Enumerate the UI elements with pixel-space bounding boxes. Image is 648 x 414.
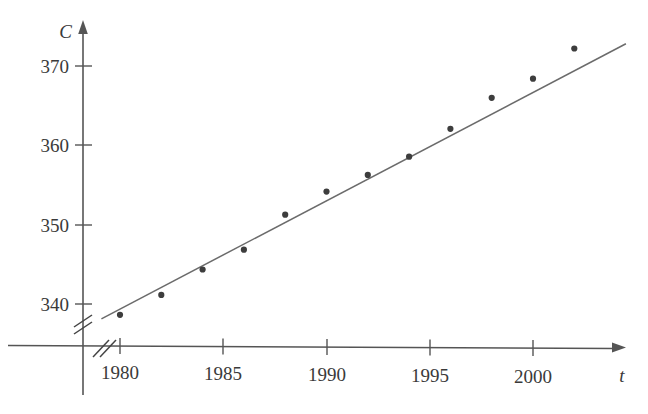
data-point [489, 95, 495, 101]
y-tick-label-370: 370 [41, 56, 70, 77]
data-point [406, 154, 412, 160]
data-point [200, 266, 206, 272]
data-point [241, 247, 247, 253]
data-point [158, 292, 164, 298]
scatter-plot-figure: 370 360 350 340 C 1980 1985 1990 1995 20… [0, 0, 648, 414]
data-point [282, 212, 288, 218]
x-tick-label-1990: 1990 [308, 364, 346, 385]
chart-page: 370 360 350 340 C 1980 1985 1990 1995 20… [0, 0, 648, 414]
x-axis-label: t [619, 365, 625, 386]
data-point [117, 312, 123, 318]
x-tick-label-1980: 1980 [101, 362, 139, 383]
data-point [447, 126, 453, 132]
y-axis-label: C [59, 21, 72, 42]
regression-line [101, 44, 626, 319]
y-axis [78, 20, 88, 395]
data-point [571, 45, 577, 51]
x-tick-label-1995: 1995 [411, 365, 449, 386]
x-axis-break-icon [93, 340, 116, 357]
y-tick-label-360: 360 [41, 135, 70, 156]
y-tick-label-350: 350 [41, 215, 70, 236]
x-tick-label-2000: 2000 [514, 366, 552, 387]
data-point [323, 189, 329, 195]
y-tick-label-340: 340 [41, 294, 70, 315]
data-point [530, 76, 536, 82]
x-axis-arrowhead [612, 343, 626, 353]
x-tick-label-1985: 1985 [204, 363, 242, 384]
data-point [365, 172, 371, 178]
y-axis-arrowhead [78, 20, 88, 34]
data-point-series [117, 45, 578, 318]
